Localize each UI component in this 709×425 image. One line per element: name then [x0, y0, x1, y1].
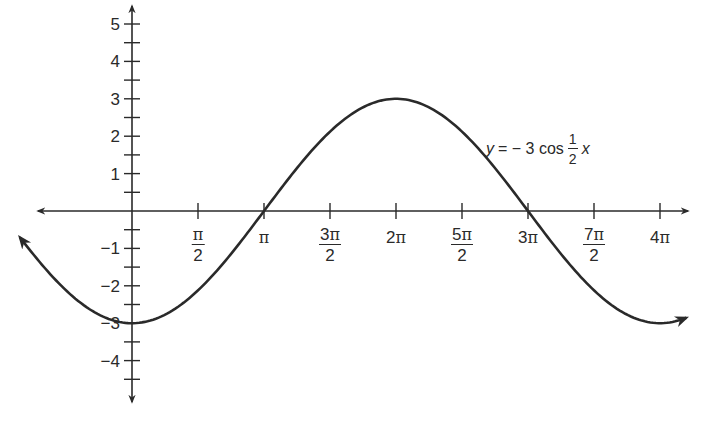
- x-tick-label: 4π: [650, 229, 670, 246]
- y-tick-label: −4: [86, 352, 120, 369]
- equation-x: x: [582, 140, 590, 158]
- y-tick-label: −1: [86, 240, 120, 257]
- x-tick-label: 5π2: [451, 226, 473, 264]
- y-tick-label: −2: [86, 277, 120, 294]
- x-tick-label: π2: [192, 226, 205, 264]
- x-tick-label: 3π: [518, 229, 538, 246]
- equation-middle: = − 3 cos: [498, 140, 564, 158]
- x-tick-label: π: [259, 229, 270, 246]
- x-tick-label: 7π2: [583, 226, 605, 264]
- x-tick-label: 2π: [386, 229, 406, 246]
- y-tick-label: 2: [86, 128, 120, 145]
- y-tick-label: 4: [86, 53, 120, 70]
- equation-y: y: [486, 140, 494, 158]
- equation-label: y = − 3 cos 1 2 x: [486, 131, 590, 167]
- y-tick-label: 5: [86, 16, 120, 33]
- y-tick-label: 3: [86, 90, 120, 107]
- y-tick-label: −3: [86, 315, 120, 332]
- fraction-denominator: 2: [569, 149, 577, 167]
- equation-fraction: 1 2: [568, 131, 578, 167]
- fraction-numerator: 1: [568, 131, 578, 149]
- x-tick-label: 3π2: [319, 226, 341, 264]
- y-tick-label: 1: [86, 165, 120, 182]
